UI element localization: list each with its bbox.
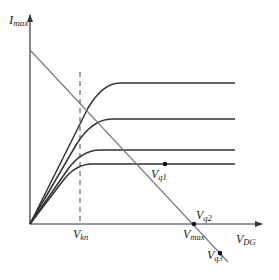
- iv-characteristics-diagram: Imax VDG Vkn Vmax Vq1 Vq2 Vq3: [0, 0, 279, 280]
- knee-voltage-label: Vkn: [73, 227, 88, 242]
- load-line: [30, 50, 228, 262]
- vmax-label: Vmax: [183, 227, 205, 242]
- x-axis-label: VDG: [236, 232, 256, 247]
- q1-label: Vq1: [151, 167, 167, 182]
- curve-1: [30, 83, 235, 224]
- y-axis-label: Imax: [8, 12, 28, 28]
- q1-point: [163, 162, 168, 167]
- curve-2: [30, 119, 235, 224]
- characteristic-curves: [30, 83, 235, 224]
- q3-label: Vq3: [207, 248, 223, 263]
- q2-point: [192, 222, 197, 227]
- q2-label: Vq2: [196, 208, 213, 223]
